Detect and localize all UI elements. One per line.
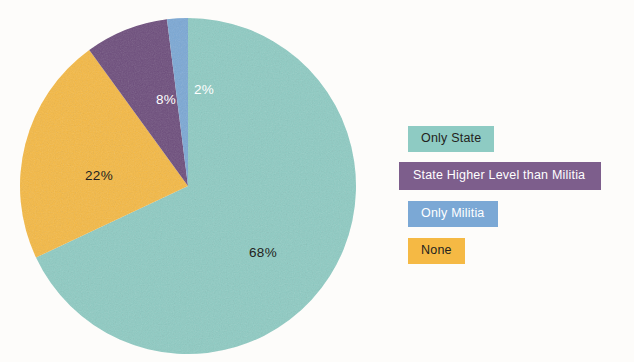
chart-legend: Only State State Higher Level than Milit…: [399, 126, 631, 273]
legend-swatch-label-state-higher-level-than-militia: State Higher Level than Militia: [399, 162, 601, 190]
legend-item-none: None: [408, 238, 631, 264]
pie-chart-figure: 68% 22% 8% 2% Only State State Higher Le…: [0, 0, 634, 362]
legend-swatch-label-only-militia: Only Militia: [408, 201, 498, 227]
legend-item-only-militia: Only Militia: [408, 201, 631, 227]
pie-chart-plot-area: 68% 22% 8% 2%: [19, 17, 357, 355]
legend-item-state-higher-level-than-militia: State Higher Level than Militia: [399, 162, 631, 190]
pie-svg: [19, 17, 357, 355]
pie-slices-group: [20, 18, 356, 354]
legend-swatch-label-only-state: Only State: [408, 126, 494, 152]
legend-item-only-state: Only State: [408, 126, 631, 152]
legend-swatch-label-none: None: [408, 238, 465, 264]
